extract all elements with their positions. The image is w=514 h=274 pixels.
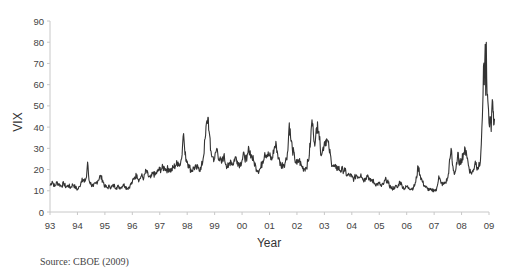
x-tick-label: 02 — [292, 220, 303, 231]
source-caption: Source: CBOE (2009) — [40, 256, 129, 267]
x-tick-label: 01 — [264, 220, 275, 231]
y-tick-label: 40 — [33, 122, 44, 133]
x-tick-label: 03 — [319, 220, 330, 231]
x-tick-label: 04 — [347, 220, 358, 231]
y-tick-label: 0 — [39, 207, 44, 218]
x-tick-label: 09 — [484, 220, 495, 231]
x-tick-label: 98 — [182, 220, 193, 231]
vix-line-chart: 0102030405060708090 93949596979899000102… — [0, 0, 514, 274]
y-tick-label: 80 — [33, 37, 44, 48]
y-tick-label: 50 — [33, 100, 44, 111]
x-tick-label: 95 — [100, 220, 111, 231]
y-tick-label: 70 — [33, 58, 44, 69]
x-axis: 9394959697989900010203040506070809 — [45, 212, 495, 231]
x-tick-label: 07 — [429, 220, 440, 231]
x-tick-label: 05 — [374, 220, 385, 231]
y-tick-label: 30 — [33, 143, 44, 154]
y-tick-label: 20 — [33, 164, 44, 175]
x-tick-label: 00 — [237, 220, 248, 231]
y-tick-label: 60 — [33, 79, 44, 90]
x-tick-label: 94 — [72, 220, 83, 231]
x-tick-label: 93 — [45, 220, 56, 231]
x-axis-title: Year — [257, 236, 281, 250]
x-tick-label: 97 — [154, 220, 165, 231]
y-axis-title: VIX — [11, 112, 25, 131]
x-tick-label: 99 — [209, 220, 220, 231]
y-axis: 0102030405060708090 — [33, 16, 50, 218]
x-tick-label: 08 — [456, 220, 467, 231]
vix-series-line — [50, 42, 495, 192]
x-tick-label: 96 — [127, 220, 138, 231]
y-tick-label: 90 — [33, 16, 44, 27]
y-tick-label: 10 — [33, 185, 44, 196]
plot-area — [50, 42, 495, 192]
x-tick-label: 06 — [401, 220, 412, 231]
